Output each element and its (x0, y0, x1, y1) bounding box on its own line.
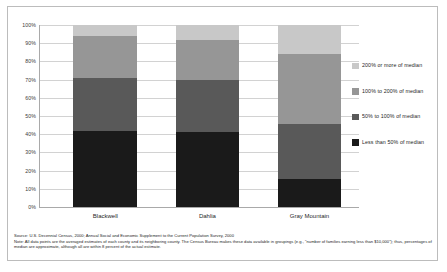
bar-segment-less-than-50[interactable] (73, 131, 137, 207)
plot-area: Blackwell Dahlia (39, 25, 359, 208)
y-tick-label: 80% (12, 58, 36, 64)
bar-group-blackwell: Blackwell (73, 25, 137, 207)
legend-label: 50% to 100% of median (362, 113, 440, 121)
y-tick-label: 50% (12, 113, 36, 119)
x-tick-label-dahlia: Dahlia (199, 213, 216, 219)
bar-segment-50-to-100[interactable] (278, 124, 342, 179)
chart-legend: 200% or more of median 100% to 200% of m… (352, 62, 440, 164)
footnote-note: Note: All data points are the averaged e… (14, 239, 433, 250)
bar-segment-50-to-100[interactable] (176, 80, 240, 133)
legend-label: 100% to 200% of median (362, 88, 440, 96)
bar-segment-100-to-200[interactable] (278, 54, 342, 124)
legend-label: Less than 50% of median (362, 139, 440, 147)
legend-swatch-icon (352, 63, 359, 70)
y-tick-label: 60% (12, 95, 36, 101)
bar-group-dahlia: Dahlia (176, 25, 240, 207)
bar-stack (73, 25, 137, 207)
legend-item-100-to-200[interactable]: 100% to 200% of median (352, 88, 440, 104)
y-tick-label: 30% (12, 149, 36, 155)
legend-swatch-icon (352, 88, 359, 95)
legend-swatch-icon (352, 139, 359, 146)
x-tick-label-gray-mountain: Gray Mountain (290, 213, 329, 219)
bar-segment-200-or-more[interactable] (278, 25, 342, 54)
bar-segment-100-to-200[interactable] (176, 40, 240, 80)
legend-item-less-than-50[interactable]: Less than 50% of median (352, 139, 440, 155)
y-tick-label: 100% (12, 22, 36, 28)
x-tick-label-blackwell: Blackwell (93, 213, 118, 219)
bar-segment-less-than-50[interactable] (278, 179, 342, 207)
bar-segment-50-to-100[interactable] (73, 78, 137, 131)
chart-figure: 100% 90% 80% 70% 60% 50% 40% 30% 20% 10%… (0, 0, 447, 272)
y-tick-label: 10% (12, 186, 36, 192)
bar-segment-less-than-50[interactable] (176, 132, 240, 207)
y-axis-labels: 100% 90% 80% 70% 60% 50% 40% 30% 20% 10%… (14, 25, 36, 207)
y-tick-label: 40% (12, 131, 36, 137)
bar-segment-200-or-more[interactable] (176, 25, 240, 40)
legend-swatch-icon (352, 114, 359, 121)
y-tick-label: 20% (12, 168, 36, 174)
legend-item-50-to-100[interactable]: 50% to 100% of median (352, 113, 440, 129)
bars-layer: Blackwell Dahlia (40, 25, 359, 207)
bar-segment-100-to-200[interactable] (73, 36, 137, 78)
y-tick-label: 0% (12, 204, 36, 210)
y-tick-label: 70% (12, 77, 36, 83)
bar-segment-200-or-more[interactable] (73, 25, 137, 36)
legend-item-200-or-more[interactable]: 200% or more of median (352, 62, 440, 78)
bar-group-gray-mountain: Gray Mountain (278, 25, 342, 207)
chart-footnotes: Source: U.S. Decennial Census, 2000; Ann… (14, 233, 434, 250)
y-tick-label: 90% (12, 40, 36, 46)
bar-stack (278, 25, 342, 207)
legend-label: 200% or more of median (362, 62, 440, 70)
bar-stack (176, 25, 240, 207)
